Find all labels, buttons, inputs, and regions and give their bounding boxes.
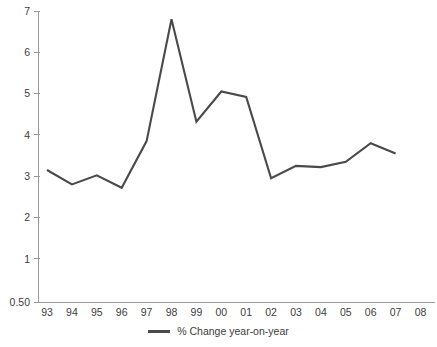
line-chart: 76543210.50 9394959697989900010203040506…	[0, 0, 437, 347]
x-tick-label: 00	[215, 306, 227, 318]
y-tick-label: 5	[24, 87, 30, 99]
x-tick-label: 97	[141, 306, 153, 318]
x-tick-label: 02	[265, 306, 277, 318]
chart-plot-area: 76543210.50 9394959697989900010203040506…	[0, 0, 437, 347]
x-tick-label: 99	[191, 306, 203, 318]
y-tick-label: 7	[24, 5, 30, 17]
y-tick-label: 6	[24, 46, 30, 58]
data-series-group	[47, 19, 396, 188]
x-tick-label: 03	[290, 306, 302, 318]
y-tick-label: 3	[24, 170, 30, 182]
x-tick-label: 98	[166, 306, 178, 318]
x-tick-label: 01	[240, 306, 252, 318]
x-tick-label: 06	[365, 306, 377, 318]
x-tick-label: 04	[315, 306, 327, 318]
y-tick-label: 4	[24, 129, 30, 141]
y-axis: 76543210.50	[10, 5, 40, 308]
y-tick-label: 1	[24, 253, 30, 265]
legend-swatch-icon	[148, 330, 170, 333]
x-tick-label: 07	[390, 306, 402, 318]
x-tick-label: 93	[41, 306, 53, 318]
legend-entry-label: % Change year-on-year	[177, 325, 288, 337]
series-line	[47, 19, 396, 188]
x-axis: 93949596979899000102030405060708	[38, 302, 435, 318]
x-tick-label: 94	[66, 306, 78, 318]
y-tick-label: 0.50	[10, 296, 31, 308]
chart-legend: % Change year-on-year	[0, 325, 437, 337]
x-tick-label: 08	[415, 306, 427, 318]
x-tick-label: 96	[116, 306, 128, 318]
x-tick-label: 05	[340, 306, 352, 318]
y-tick-label: 2	[24, 211, 30, 223]
x-tick-label: 95	[91, 306, 103, 318]
